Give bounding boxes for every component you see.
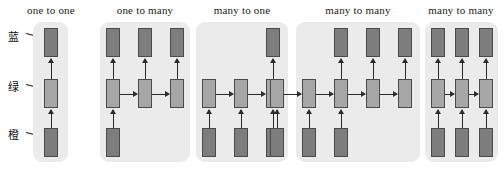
- hidden-cell: [398, 79, 412, 108]
- input-cell: [234, 128, 248, 157]
- annotation-label-orange: 橙: [8, 126, 19, 142]
- hidden-cell: [431, 79, 445, 108]
- arrow-right: [380, 94, 397, 95]
- arrow-up: [241, 110, 242, 128]
- output-cell: [479, 28, 493, 57]
- arrow-up: [438, 59, 439, 79]
- hidden-cell: [455, 79, 469, 108]
- arrow-right: [348, 94, 365, 95]
- arrow-up: [113, 110, 114, 128]
- arrow-right: [284, 94, 301, 95]
- output-cell: [170, 28, 184, 57]
- arrow-up: [405, 59, 406, 79]
- arrow-up: [113, 59, 114, 79]
- arrow-up: [309, 110, 310, 128]
- annotation-label-green: 绿: [8, 78, 19, 94]
- arrow-up: [462, 110, 463, 128]
- hidden-cell: [202, 79, 216, 108]
- output-cell: [366, 28, 380, 57]
- hidden-cell: [270, 79, 284, 108]
- output-cell: [334, 28, 348, 57]
- input-cell: [202, 128, 216, 157]
- hidden-cell: [479, 79, 493, 108]
- arrow-up: [486, 59, 487, 79]
- panel-title-one-to-one: one to one: [11, 4, 91, 16]
- input-cell: [455, 128, 469, 157]
- hidden-cell: [234, 79, 248, 108]
- panel-title-many-to-many-synced: many to many: [421, 4, 501, 16]
- input-cell: [44, 128, 58, 157]
- arrow-up: [462, 59, 463, 79]
- input-cell: [431, 128, 445, 157]
- output-cell: [398, 28, 412, 57]
- arrow-up: [145, 59, 146, 79]
- hidden-cell: [138, 79, 152, 108]
- arrow-right: [152, 94, 169, 95]
- input-cell: [302, 128, 316, 157]
- arrow-up: [177, 59, 178, 79]
- arrow-up: [277, 110, 278, 128]
- arrow-right: [120, 94, 137, 95]
- arrow-up: [341, 110, 342, 128]
- input-cell: [479, 128, 493, 157]
- arrow-right: [469, 94, 478, 95]
- hidden-cell: [334, 79, 348, 108]
- arrow-up: [51, 110, 52, 128]
- panel-title-one-to-many: one to many: [105, 4, 185, 16]
- rnn-configuration-figure: 蓝 绿 橙 one to one one to many many to one: [0, 0, 503, 172]
- annotation-label-blue: 蓝: [8, 28, 19, 44]
- input-cell: [270, 128, 284, 157]
- arrow-right: [248, 94, 265, 95]
- arrow-up: [209, 110, 210, 128]
- arrow-up: [51, 59, 52, 79]
- hidden-cell: [170, 79, 184, 108]
- arrow-up: [438, 110, 439, 128]
- output-cell: [455, 28, 469, 57]
- input-cell: [106, 128, 120, 157]
- panel-title-many-to-one: many to one: [202, 4, 282, 16]
- panel-title-many-to-many-seq2seq: many to many: [318, 4, 398, 16]
- arrow-right: [316, 94, 333, 95]
- hidden-cell: [106, 79, 120, 108]
- hidden-cell: [44, 79, 58, 108]
- input-cell: [334, 128, 348, 157]
- hidden-cell: [302, 79, 316, 108]
- hidden-cell: [366, 79, 380, 108]
- output-cell: [266, 28, 280, 57]
- arrow-up: [273, 59, 274, 79]
- output-cell: [44, 28, 58, 57]
- output-cell: [106, 28, 120, 57]
- output-cell: [431, 28, 445, 57]
- arrow-right: [445, 94, 454, 95]
- arrow-up: [373, 59, 374, 79]
- arrow-up: [486, 110, 487, 128]
- arrow-up: [341, 59, 342, 79]
- arrow-right: [216, 94, 233, 95]
- output-cell: [138, 28, 152, 57]
